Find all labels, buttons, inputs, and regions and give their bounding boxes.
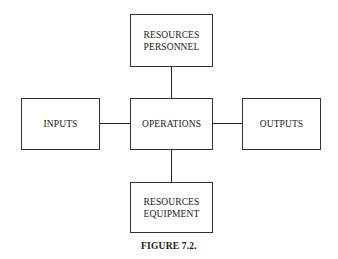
node-label-line1: RESOURCES (144, 196, 200, 208)
connector-operations-equipment (171, 150, 172, 182)
node-outputs: OUTPUTS (242, 98, 321, 150)
node-label-line1: RESOURCES (144, 29, 200, 41)
node-resources-equipment: RESOURCES EQUIPMENT (130, 182, 213, 233)
node-inputs: INPUTS (21, 98, 100, 150)
node-resources-personnel: RESOURCES PERSONNEL (130, 14, 213, 67)
connector-personnel-operations (171, 67, 172, 98)
node-label: OUTPUTS (260, 118, 303, 130)
node-label-line2: EQUIPMENT (144, 208, 200, 220)
node-label: INPUTS (44, 118, 78, 130)
node-operations: OPERATIONS (130, 98, 213, 150)
connector-operations-outputs (213, 123, 242, 124)
figure-caption: FIGURE 7.2. (0, 241, 338, 251)
node-label: OPERATIONS (142, 118, 201, 130)
connector-inputs-operations (100, 123, 130, 124)
node-label-line2: PERSONNEL (144, 41, 200, 53)
